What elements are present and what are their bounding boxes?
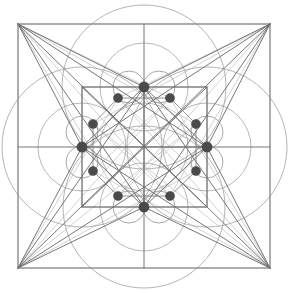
node-upper-right [165, 93, 174, 102]
node-left-upper [88, 119, 97, 128]
node-left [77, 142, 87, 152]
geometry-canvas [0, 0, 288, 294]
geometry-figure [0, 0, 288, 294]
node-right-upper [191, 119, 200, 128]
node-lower-right [165, 191, 174, 200]
node-right-lower [191, 166, 200, 175]
node-lower-left [113, 191, 122, 200]
node-bottom [139, 202, 149, 212]
node-upper-left [113, 93, 122, 102]
node-left-lower [88, 166, 97, 175]
node-right [202, 142, 212, 152]
node-top [139, 82, 149, 92]
